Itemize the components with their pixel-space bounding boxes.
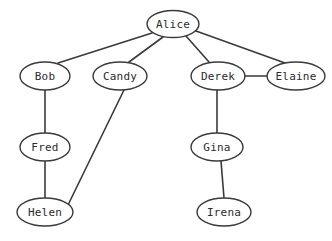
graph-node-bob[interactable]: Bob xyxy=(20,62,70,90)
node-label-helen: Helen xyxy=(28,206,62,219)
graph-diagram: AliceBobCandyDerekElaineFredGinaHelenIre… xyxy=(0,0,332,241)
node-label-gina: Gina xyxy=(203,141,230,154)
node-label-alice: Alice xyxy=(156,18,190,31)
graph-node-irena[interactable]: Irena xyxy=(197,198,251,226)
graph-node-candy[interactable]: Candy xyxy=(93,62,147,90)
graph-node-fred[interactable]: Fred xyxy=(20,133,70,161)
graph-node-helen[interactable]: Helen xyxy=(17,198,73,226)
graph-node-alice[interactable]: Alice xyxy=(147,11,199,38)
graph-node-derek[interactable]: Derek xyxy=(191,62,245,90)
node-label-derek: Derek xyxy=(201,70,235,83)
node-label-fred: Fred xyxy=(31,141,58,154)
node-label-elaine: Elaine xyxy=(276,70,317,83)
graph-node-elaine[interactable]: Elaine xyxy=(267,62,325,90)
node-label-candy: Candy xyxy=(103,70,137,83)
graph-node-gina[interactable]: Gina xyxy=(191,133,243,161)
node-label-bob: Bob xyxy=(35,70,55,83)
node-label-irena: Irena xyxy=(207,206,241,219)
